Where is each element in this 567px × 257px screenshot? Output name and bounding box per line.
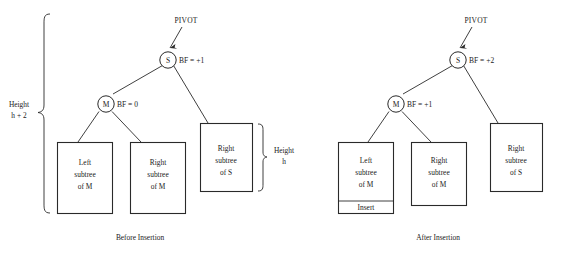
- node-m-before-bf: BF = 0: [117, 100, 138, 109]
- node-s-after-bf: BF = +2: [469, 56, 494, 65]
- box-right-subtree-of-m-after-line2: subtree: [428, 168, 450, 177]
- pivot-arrow-before: [170, 27, 182, 49]
- avl-rotation-figure: Height h + 2 PIVOT S BF = +1 M BF = 0: [0, 0, 567, 257]
- box-right-subtree-of-s-after-line2: subtree: [505, 156, 527, 165]
- node-m-before: M: [98, 96, 114, 112]
- node-m-before-label: M: [103, 100, 110, 109]
- panel-before-insertion: Height h + 2 PIVOT S BF = +1 M BF = 0: [9, 14, 295, 242]
- box-left-subtree-of-m-after: Left subtree of M Insert: [339, 143, 394, 214]
- brace-label-height-h-line2: h: [282, 157, 286, 166]
- box-left-subtree-of-m-after-line1: Left: [360, 156, 373, 165]
- box-right-subtree-of-m-after-line3: of M: [432, 180, 447, 189]
- box-left-subtree-of-m-before: Left subtree of M: [58, 143, 113, 214]
- box-right-subtree-of-s-before-line2: subtree: [215, 156, 237, 165]
- box-insert-label-after: Insert: [358, 203, 376, 212]
- node-m-after-bf: BF = +1: [407, 100, 432, 109]
- node-m-after: M: [388, 96, 404, 112]
- box-right-subtree-of-m-after-line1: Right: [431, 156, 448, 165]
- panel-after-insertion: PIVOT S BF = +2 M BF = +1 Left subtr: [339, 16, 543, 242]
- box-right-subtree-of-s-before: Right subtree of S: [201, 124, 253, 192]
- caption-after-insertion: After Insertion: [416, 233, 460, 242]
- node-s-before-bf: BF = +1: [179, 56, 204, 65]
- box-left-subtree-of-m-after-line2: subtree: [355, 168, 377, 177]
- box-right-subtree-of-s-after-line3: of S: [510, 168, 522, 177]
- brace-height-h: [258, 124, 267, 191]
- pivot-label-after: PIVOT: [464, 16, 487, 25]
- box-right-subtree-of-s-after: Right subtree of S: [491, 124, 543, 192]
- node-s-before-label: S: [166, 56, 170, 65]
- box-right-subtree-of-m-before-line2: subtree: [147, 170, 169, 179]
- box-right-subtree-of-m-after: Right subtree of M: [412, 143, 467, 206]
- node-s-after-label: S: [456, 56, 460, 65]
- box-right-subtree-of-m-before: Right subtree of M: [131, 143, 186, 214]
- box-right-subtree-of-s-before-line3: of S: [220, 168, 232, 177]
- box-left-subtree-of-m-before-line2: subtree: [74, 170, 96, 179]
- box-right-subtree-of-m-before-line3: of M: [151, 182, 166, 191]
- box-left-subtree-of-m-before-line3: of M: [78, 182, 93, 191]
- pivot-arrow-after: [460, 27, 472, 49]
- pivot-label-before: PIVOT: [174, 16, 197, 25]
- node-m-after-label: M: [393, 100, 400, 109]
- box-right-subtree-of-s-after-line1: Right: [508, 144, 525, 153]
- node-s-after: S: [450, 52, 466, 68]
- brace-label-height-h-line1: Height: [274, 146, 295, 155]
- brace-label-height-h-plus-2-line1: Height: [9, 100, 30, 109]
- box-right-subtree-of-m-before-line1: Right: [150, 158, 167, 167]
- box-left-subtree-of-m-before-line1: Left: [79, 158, 92, 167]
- box-left-subtree-of-m-after-line3: of M: [359, 180, 374, 189]
- brace-label-height-h-plus-2-line2: h + 2: [11, 111, 27, 120]
- node-s-before: S: [160, 52, 176, 68]
- box-right-subtree-of-s-before-line1: Right: [218, 144, 235, 153]
- caption-before-insertion: Before Insertion: [116, 233, 165, 242]
- brace-height-h-plus-2: [38, 14, 50, 213]
